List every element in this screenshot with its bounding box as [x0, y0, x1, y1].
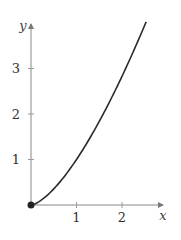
x-tick-label-2: 2: [118, 210, 126, 225]
y-axis-label: y: [18, 18, 27, 33]
x-tick-label-1: 1: [72, 210, 80, 225]
chart: 1 2 1 2 3 x y: [0, 0, 181, 240]
x-axis-label: x: [159, 208, 167, 223]
y-tick-label-3: 3: [12, 61, 20, 76]
curve-series: [31, 22, 146, 205]
y-tick-label-1: 1: [12, 152, 20, 167]
origin-point: [28, 202, 35, 209]
y-tick-label-2: 2: [12, 107, 20, 122]
